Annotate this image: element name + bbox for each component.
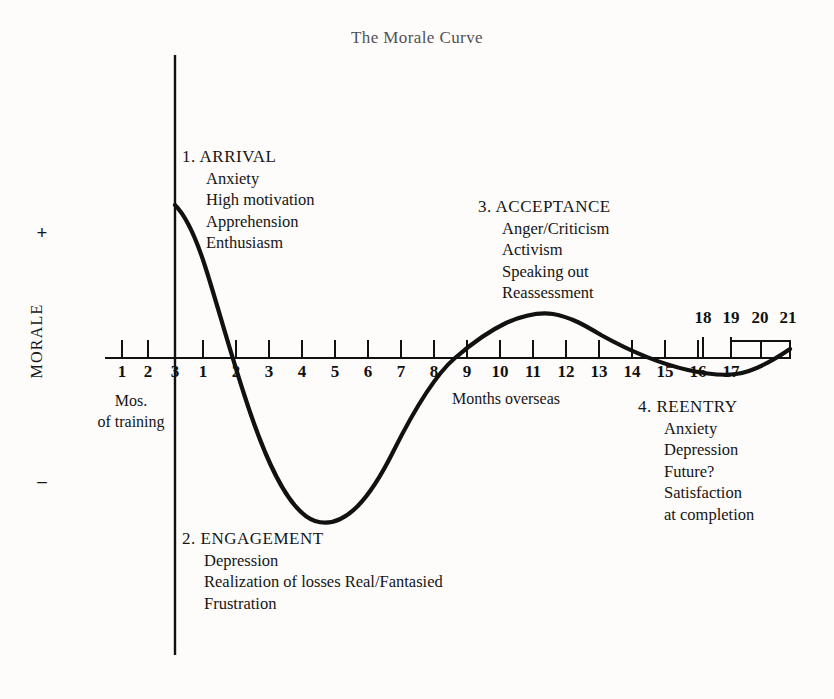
months-overseas-caption: Months overseas bbox=[452, 390, 560, 408]
training-caption-line-1: Mos. bbox=[88, 390, 174, 411]
tick-label-overseas-16: 16 bbox=[685, 362, 711, 382]
annotation-arrival-item: Apprehension bbox=[206, 211, 315, 233]
tick-label-overseas-13: 13 bbox=[586, 362, 612, 382]
annotation-reentry: 4. REENTRY Anxiety Depression Future? Sa… bbox=[638, 396, 754, 525]
tick-label-overseas-6: 6 bbox=[355, 362, 381, 382]
tick-label-overseas-8: 8 bbox=[421, 362, 447, 382]
annotation-engagement-item: Frustration bbox=[204, 593, 443, 615]
annotation-engagement: 2. ENGAGEMENT Depression Realization of … bbox=[182, 528, 443, 614]
annotation-engagement-heading: 2. ENGAGEMENT bbox=[182, 528, 443, 550]
annotation-reentry-item: Anxiety bbox=[664, 418, 754, 440]
annotation-acceptance-item: Anger/Criticism bbox=[502, 218, 611, 240]
tick-label-overseas-14: 14 bbox=[619, 362, 645, 382]
morale-curve-figure: The Morale Curve bbox=[0, 0, 834, 699]
y-axis-label-text: MORALE bbox=[28, 266, 46, 416]
tail-tick-marks bbox=[703, 337, 790, 358]
annotation-reentry-item: Depression bbox=[664, 439, 754, 461]
training-tick-marks bbox=[122, 340, 148, 358]
tick-label-overseas-17: 17 bbox=[718, 362, 744, 382]
tick-label-training-2: 2 bbox=[135, 362, 161, 382]
tick-label-overseas-4: 4 bbox=[289, 362, 315, 382]
tick-label-overseas-2: 2 bbox=[223, 362, 249, 382]
training-caption-line-2: of training bbox=[88, 411, 174, 432]
annotation-acceptance-heading: 3. ACCEPTANCE bbox=[478, 196, 611, 218]
annotation-reentry-item: Future? bbox=[664, 461, 754, 483]
tick-label-overseas-21: 21 bbox=[775, 308, 801, 328]
tick-label-overseas-15: 15 bbox=[652, 362, 678, 382]
y-axis-label: MORALE bbox=[14, 200, 54, 510]
annotation-reentry-item: at completion bbox=[664, 504, 754, 526]
annotation-arrival: 1. ARRIVAL Anxiety High motivation Appre… bbox=[182, 146, 315, 254]
tick-label-overseas-20: 20 bbox=[747, 308, 773, 328]
annotation-reentry-item: Satisfaction bbox=[664, 482, 754, 504]
annotation-acceptance-item: Activism bbox=[502, 239, 611, 261]
tick-label-overseas-12: 12 bbox=[553, 362, 579, 382]
annotation-acceptance: 3. ACCEPTANCE Anger/Criticism Activism S… bbox=[478, 196, 611, 304]
annotation-acceptance-item: Reassessment bbox=[502, 282, 611, 304]
training-months-caption: Mos. of training bbox=[88, 390, 174, 432]
annotation-arrival-item: Enthusiasm bbox=[206, 232, 315, 254]
y-axis-negative-marker: – bbox=[32, 470, 52, 492]
annotation-arrival-items: Anxiety High motivation Apprehension Ent… bbox=[182, 168, 315, 254]
annotation-engagement-item: Depression bbox=[204, 550, 443, 572]
tick-label-overseas-11: 11 bbox=[520, 362, 546, 382]
annotation-reentry-heading: 4. REENTRY bbox=[638, 396, 754, 418]
tick-label-overseas-3: 3 bbox=[256, 362, 282, 382]
annotation-reentry-items: Anxiety Depression Future? Satisfaction … bbox=[638, 418, 754, 526]
tick-label-overseas-5: 5 bbox=[322, 362, 348, 382]
annotation-arrival-item: High motivation bbox=[206, 189, 315, 211]
tick-label-overseas-9: 9 bbox=[454, 362, 480, 382]
tick-label-overseas-18: 18 bbox=[690, 308, 716, 328]
annotation-arrival-heading: 1. ARRIVAL bbox=[182, 146, 315, 168]
annotation-acceptance-item: Speaking out bbox=[502, 261, 611, 283]
annotation-arrival-item: Anxiety bbox=[206, 168, 315, 190]
tick-label-training-3: 3 bbox=[162, 362, 188, 382]
annotation-engagement-item: Realization of losses Real/Fantasied bbox=[204, 571, 443, 593]
annotation-engagement-items: Depression Realization of losses Real/Fa… bbox=[182, 550, 443, 615]
tick-label-overseas-7: 7 bbox=[388, 362, 414, 382]
annotation-acceptance-items: Anger/Criticism Activism Speaking out Re… bbox=[478, 218, 611, 304]
tick-label-training-1: 1 bbox=[109, 362, 135, 382]
tick-label-overseas-10: 10 bbox=[487, 362, 513, 382]
tick-label-overseas-1: 1 bbox=[190, 362, 216, 382]
tick-label-overseas-19: 19 bbox=[718, 308, 744, 328]
